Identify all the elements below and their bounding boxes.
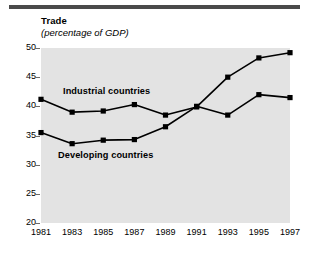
- data-point-marker: [163, 124, 168, 129]
- data-point-marker: [256, 92, 261, 97]
- series-line: [41, 53, 290, 115]
- data-point-marker: [194, 104, 199, 109]
- series-line: [41, 95, 290, 144]
- series-label-developing: Developing countries: [58, 150, 153, 160]
- data-point-marker: [70, 141, 75, 146]
- data-point-marker: [70, 110, 75, 115]
- data-point-marker: [38, 97, 43, 102]
- series-developing: [38, 92, 292, 146]
- data-point-marker: [287, 95, 292, 100]
- data-point-marker: [163, 112, 168, 117]
- data-point-marker: [101, 138, 106, 143]
- series-canvas: [0, 0, 309, 260]
- data-point-marker: [256, 55, 261, 60]
- data-point-marker: [225, 112, 230, 117]
- plot-container: 20253035404550 1981198319851987198919911…: [0, 0, 309, 260]
- data-point-marker: [132, 102, 137, 107]
- data-point-marker: [225, 75, 230, 80]
- data-point-marker: [132, 137, 137, 142]
- chart-figure: Trade (percentage of GDP) 20253035404550…: [0, 0, 309, 260]
- data-point-marker: [101, 108, 106, 113]
- data-point-marker: [287, 50, 292, 55]
- series-industrial: [38, 50, 292, 118]
- series-label-industrial: Industrial countries: [63, 86, 150, 96]
- data-point-marker: [38, 130, 43, 135]
